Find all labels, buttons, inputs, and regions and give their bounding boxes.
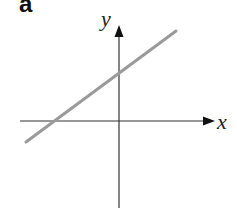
x-axis-arrowhead-icon	[203, 117, 215, 126]
x-axis-label: x	[217, 111, 227, 133]
y-axis-arrowhead-icon	[115, 25, 124, 37]
y-axis-label: y	[101, 8, 111, 30]
plotted-line	[26, 31, 176, 142]
graph-canvas	[0, 0, 237, 208]
graph-figure: a y x	[0, 0, 237, 208]
